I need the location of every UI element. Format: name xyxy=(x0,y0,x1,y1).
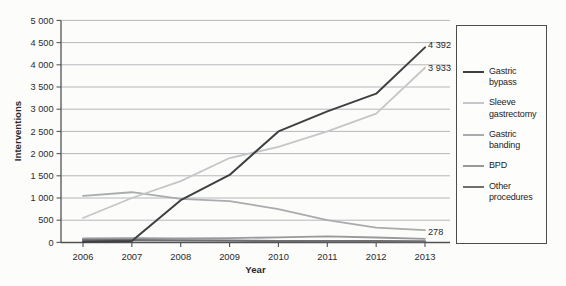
legend-item-sleeve-gastrectomy: Sleeve gastrectomy xyxy=(463,97,546,120)
y-tick-label: 1 000 xyxy=(31,193,54,203)
y-tick-label: 2 500 xyxy=(31,127,54,137)
legend: Gastric bypass Sleeve gastrectomy Gastri… xyxy=(456,25,547,244)
legend-label: Other procedures xyxy=(489,181,546,204)
x-tick-label: 2007 xyxy=(121,251,142,262)
x-tick-label: 2006 xyxy=(73,251,94,262)
x-tick-label: 2013 xyxy=(415,251,436,262)
legend-item-other-procedures: Other procedures xyxy=(463,181,546,204)
legend-label: Sleeve gastrectomy xyxy=(489,97,546,120)
legend-line-swatch xyxy=(463,102,484,104)
legend-item-gastric-bypass: Gastric bypass xyxy=(463,66,546,89)
legend-label: Gastric banding xyxy=(489,129,546,152)
x-tick-label: 2008 xyxy=(170,251,191,262)
y-tick-label: 1 500 xyxy=(31,171,54,181)
y-tick-label: 3 500 xyxy=(31,82,54,92)
y-tick-label: 3 000 xyxy=(31,104,54,114)
legend-label: BPD xyxy=(489,160,546,171)
legend-line-swatch xyxy=(463,71,484,73)
y-tick-label: 0 xyxy=(48,238,53,248)
line-chart-figure: 05001 0001 5002 0002 5003 0003 5004 0004… xyxy=(0,0,566,286)
data-label-sleeve-gastrectomy: 3 933 xyxy=(428,63,451,73)
legend-item-gastric-banding: Gastric banding xyxy=(463,129,546,152)
x-tick-label: 2010 xyxy=(268,251,289,262)
y-tick-label: 500 xyxy=(38,215,53,225)
y-tick-label: 5 000 xyxy=(31,16,54,26)
y-tick-label: 4 000 xyxy=(31,60,54,70)
y-tick-label: 2 000 xyxy=(31,149,54,159)
legend-line-swatch xyxy=(463,134,484,136)
legend-line-swatch xyxy=(463,165,484,167)
x-axis-title: Year xyxy=(245,264,266,275)
data-label-gastric-banding: 278 xyxy=(428,227,443,237)
x-tick-label: 2011 xyxy=(317,251,337,262)
y-axis-title: Interventions xyxy=(12,101,23,161)
x-tick-label: 2009 xyxy=(219,251,240,262)
legend-item-bpd: BPD xyxy=(463,160,546,171)
series-line-sleeve-gastrectomy xyxy=(83,68,425,218)
series-line-gastric-bypass xyxy=(83,47,425,241)
y-tick-label: 4 500 xyxy=(31,38,54,48)
data-label-gastric-bypass: 4 392 xyxy=(428,40,451,50)
legend-label: Gastric bypass xyxy=(489,66,546,89)
x-tick-label: 2012 xyxy=(366,251,387,262)
legend-line-swatch xyxy=(463,186,484,188)
